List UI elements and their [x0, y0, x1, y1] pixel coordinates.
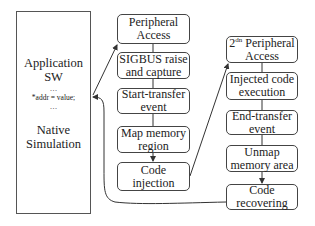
step-label: Peripheral Access	[129, 16, 178, 42]
step-injected-code-execution: Injected code execution	[226, 72, 298, 100]
code-ellipsis-bottom: …	[16, 102, 91, 111]
app-footer-line2: Simulation	[16, 137, 91, 151]
step-end-transfer-event: End-transfer event	[226, 110, 298, 135]
step-label: Start-transfer event	[122, 88, 185, 114]
step-unmap-memory-area: Unmap memory area	[226, 145, 298, 172]
code-line: *addr = value;	[16, 93, 91, 102]
app-title-line2: SW	[16, 70, 91, 84]
step-peripheral-access: Peripheral Access	[117, 14, 190, 44]
step-map-memory-region: Map memory region	[117, 126, 190, 153]
step-label: Code recovering	[236, 184, 287, 210]
application-sw-box	[16, 11, 91, 214]
step-label: Code injection	[133, 164, 175, 190]
step-label: 2dn PeripheralAccess	[229, 37, 294, 63]
step-label: Map memory region	[121, 127, 186, 153]
step-start-transfer-event: Start-transfer event	[117, 88, 190, 114]
step-label: End-transfer event	[232, 110, 292, 136]
step-code-injection: Code injection	[117, 162, 190, 191]
step-label: Unmap memory area	[231, 146, 294, 172]
app-footer-line1: Native	[16, 123, 91, 137]
app-title-line1: Application	[16, 56, 91, 70]
label-line2: Access	[245, 49, 279, 63]
step-label: Injected code execution	[230, 73, 294, 99]
label-rest: Peripheral	[242, 36, 294, 50]
code-ellipsis-top: …	[16, 84, 91, 93]
step-sigbus-raise-capture: SIGBUS raise and capture	[117, 52, 190, 79]
step-label: SIGBUS raise and capture	[119, 53, 187, 79]
step-second-peripheral-access: 2dn PeripheralAccess	[226, 36, 298, 63]
step-code-recovering: Code recovering	[226, 184, 298, 210]
